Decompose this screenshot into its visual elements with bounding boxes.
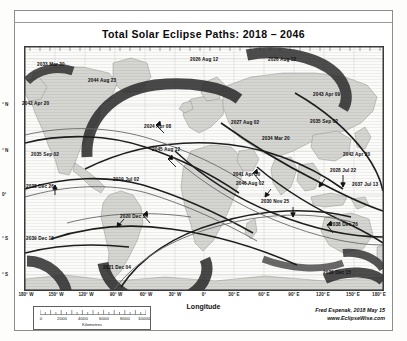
longitude-tick: 120° W <box>78 292 93 297</box>
eclipse-label: 2045 Aug 12 <box>152 147 180 152</box>
eclipse-label: 2024 Apr 08 <box>144 124 171 129</box>
eclipse-label: 2021 Dec 04 <box>103 265 131 270</box>
longitude-tick: 60° E <box>258 292 269 297</box>
latitude-tick: ° N <box>2 148 22 153</box>
latitude-tick: 0° <box>2 192 22 197</box>
longitude-tick: 60° W <box>140 292 153 297</box>
eclipse-label: 2035 Sep 02 <box>310 119 338 124</box>
credit-author: Fred Espenak, 2018 May 15 <box>315 306 385 314</box>
scale-bar: 0 2000 4000 6000 8000 10000 Kilometres <box>33 306 151 330</box>
scale-bar-tick: 6000 <box>99 316 109 321</box>
longitude-axis: 180° W 150° W 120° W 90° W 60° W 30° W 0… <box>24 292 384 302</box>
eclipse-label: 2030 Nov 25 <box>261 199 289 204</box>
credit-block: Fred Espenak, 2018 May 15 www.EclipseWis… <box>315 306 385 323</box>
eclipse-label: 2027 Aug 02 <box>231 120 259 125</box>
scale-bar-tick: 8000 <box>120 316 130 321</box>
longitude-tick: 90° E <box>288 292 299 297</box>
longitude-tick: 0° <box>202 292 206 297</box>
latitude-tick: ° S <box>2 272 22 277</box>
eclipse-label: 2038 Dec 26 <box>330 222 358 227</box>
eclipse-label: 2019 Jul 02 <box>113 177 139 182</box>
latitude-tick: ° N <box>2 102 22 107</box>
eclipse-label: 2026 Aug 12 <box>190 57 218 62</box>
scale-bar-tick: 2000 <box>57 316 67 321</box>
figure-header-rule <box>14 22 393 23</box>
figure-page: Total Solar Eclipse Paths: 2018 – 2046 °… <box>0 0 407 341</box>
eclipse-label: 2042 Apr 20 <box>343 152 370 157</box>
longitude-tick: 30° E <box>228 292 239 297</box>
eclipse-label: 2034 Mar 20 <box>262 136 290 141</box>
credit-website[interactable]: www.EclipseWise.com <box>315 314 385 322</box>
longitude-tick: 150° E <box>346 292 360 297</box>
longitude-tick: 180° E <box>372 292 386 297</box>
eclipse-label: 2038 Dec 26 <box>26 184 54 189</box>
eclipse-label: 2033 Mar 30 <box>37 62 65 67</box>
eclipse-label: 2037 Jul 13 <box>352 182 378 187</box>
eclipse-label: 2020 Dec 14 <box>120 214 148 219</box>
scale-bar-ruler <box>40 310 146 315</box>
longitude-tick: 120° E <box>316 292 330 297</box>
scale-bar-tick: 4000 <box>78 316 88 321</box>
eclipse-label: 2028 Jul 22 <box>330 168 356 173</box>
eclipse-label: 2043 Apr 09 <box>313 92 340 97</box>
scale-bar-unit-label: Kilometres <box>34 322 150 327</box>
eclipse-label: 2039 Dec 15 <box>26 236 54 241</box>
longitude-tick: 150° W <box>48 292 63 297</box>
eclipse-label: 2035 Sep 02 <box>31 152 59 157</box>
figure-title: Total Solar Eclipse Paths: 2018 – 2046 <box>0 28 407 40</box>
eclipse-label: 2026 Aug 12 <box>268 57 296 62</box>
scale-bar-tick: 0 <box>40 316 42 321</box>
eclipse-label: 2042 Apr 20 <box>22 101 49 106</box>
eclipse-label: 2046 Aug 02 <box>236 181 264 186</box>
latitude-axis: ° N ° N 0° ° S ° S <box>0 46 24 291</box>
longitude-tick: 180° W <box>18 292 33 297</box>
eclipse-label: 2044 Aug 23 <box>88 78 116 83</box>
longitude-tick: 30° W <box>169 292 182 297</box>
eclipse-label: 2039 Dec 15 <box>323 270 351 275</box>
eclipse-label: 2041 Apr 30 <box>233 172 260 177</box>
scale-bar-tick: 10000 <box>138 316 150 321</box>
latitude-tick: ° S <box>2 236 22 241</box>
longitude-tick: 90° W <box>110 292 123 297</box>
